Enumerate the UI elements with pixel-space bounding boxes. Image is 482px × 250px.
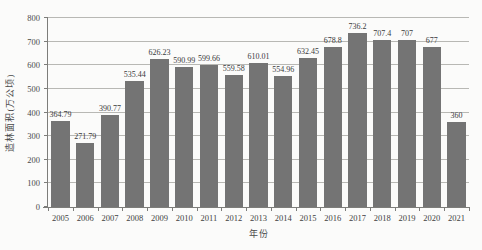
x-category-label-2021: 2021 xyxy=(438,213,475,223)
x-tick-mark-12 xyxy=(345,207,346,211)
bar-2013 xyxy=(249,63,267,207)
band-2010: 590.992010 xyxy=(172,18,197,207)
bar-2015 xyxy=(299,58,317,207)
y-tick-label-600: 600 xyxy=(27,60,40,70)
bar-2017 xyxy=(348,33,366,207)
band-2012: 559.582012 xyxy=(221,18,246,207)
y-tick-label-700: 700 xyxy=(27,37,40,47)
x-tick-mark-3 xyxy=(122,207,123,211)
band-2007: 390.772007 xyxy=(98,18,123,207)
bar-2019 xyxy=(398,40,416,207)
x-axis-line xyxy=(43,207,469,208)
afforestation-bar-chart-figure: 造林面积(万公顷) 0100200300400500600700800364.7… xyxy=(0,0,482,250)
x-tick-mark-8 xyxy=(246,207,247,211)
band-2011: 599.662011 xyxy=(197,18,222,207)
x-tick-mark-7 xyxy=(221,207,222,211)
x-tick-mark-4 xyxy=(147,207,148,211)
y-tick-label-100: 100 xyxy=(27,178,40,188)
bar-2009 xyxy=(150,59,168,207)
band-2008: 535.442008 xyxy=(122,18,147,207)
y-tick-label-200: 200 xyxy=(27,155,40,165)
band-2019: 7072019 xyxy=(395,18,420,207)
band-2009: 626.232009 xyxy=(147,18,172,207)
bar-2007 xyxy=(101,115,119,207)
band-2016: 678.82016 xyxy=(320,18,345,207)
y-tick-label-300: 300 xyxy=(27,131,40,141)
band-2021: 3602021 xyxy=(444,18,469,207)
x-tick-mark-9 xyxy=(271,207,272,211)
y-tick-label-800: 800 xyxy=(27,13,40,23)
band-2005: 364.792005 xyxy=(48,18,73,207)
band-2013: 610.012013 xyxy=(246,18,271,207)
x-axis-title: 年份 xyxy=(48,227,469,240)
x-tick-mark-2 xyxy=(98,207,99,211)
bar-2011 xyxy=(200,65,218,207)
x-tick-mark-15 xyxy=(419,207,420,211)
y-tick-label-0: 0 xyxy=(36,202,40,212)
band-2018: 707.42018 xyxy=(370,18,395,207)
bar-2006 xyxy=(76,143,94,207)
bar-2012 xyxy=(225,75,243,207)
bar-2018 xyxy=(373,40,391,207)
bar-2020 xyxy=(423,47,441,207)
y-tick-label-500: 500 xyxy=(27,84,40,94)
x-tick-mark-1 xyxy=(73,207,74,211)
x-tick-mark-10 xyxy=(296,207,297,211)
x-tick-mark-14 xyxy=(395,207,396,211)
bar-2014 xyxy=(274,76,292,207)
x-tick-mark-11 xyxy=(320,207,321,211)
plot-area: 0100200300400500600700800364.792005271.7… xyxy=(48,18,469,207)
band-2015: 632.452015 xyxy=(296,18,321,207)
x-tick-mark-5 xyxy=(172,207,173,211)
bar-2008 xyxy=(125,81,143,207)
x-tick-mark-6 xyxy=(197,207,198,211)
bar-value-label-2021: 360 xyxy=(431,111,482,120)
x-tick-mark-13 xyxy=(370,207,371,211)
x-tick-mark-0 xyxy=(48,207,49,211)
bar-2021 xyxy=(447,122,465,207)
y-axis-title-wrap: 造林面积(万公顷) xyxy=(0,18,18,207)
y-axis-title: 造林面积(万公顷) xyxy=(3,74,16,152)
bar-2010 xyxy=(175,67,193,207)
x-tick-mark-16 xyxy=(444,207,445,211)
x-tick-mark-17 xyxy=(469,207,470,211)
band-2017: 736.22017 xyxy=(345,18,370,207)
bar-2016 xyxy=(324,47,342,207)
